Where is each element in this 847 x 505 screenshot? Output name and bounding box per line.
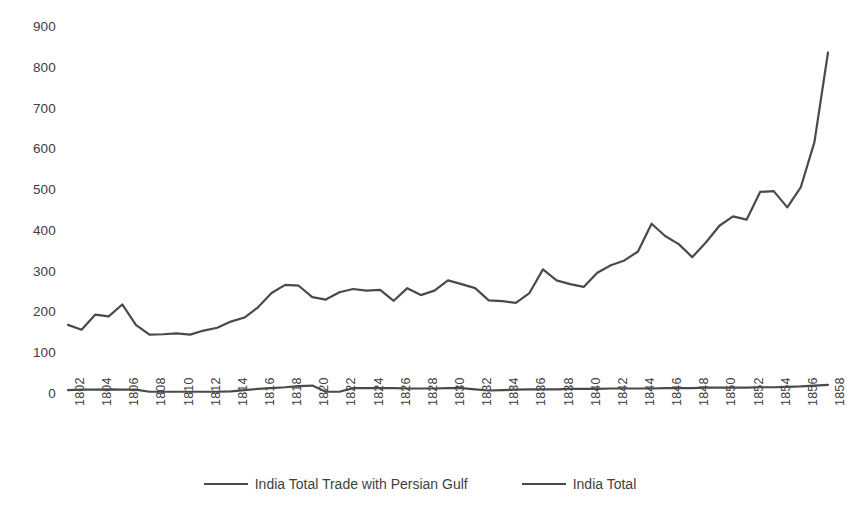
- legend-line-icon: [522, 483, 566, 485]
- series-line: [68, 385, 828, 392]
- legend-label: India Total Trade with Persian Gulf: [255, 476, 468, 492]
- legend-label: India Total: [573, 476, 637, 492]
- series-line: [68, 52, 828, 334]
- legend-entry[interactable]: India Total Trade with Persian Gulf: [204, 476, 468, 492]
- legend-entry[interactable]: India Total: [522, 476, 637, 492]
- legend-line-icon: [204, 483, 248, 485]
- chart-legend: India Total Trade with Persian GulfIndia…: [0, 476, 840, 492]
